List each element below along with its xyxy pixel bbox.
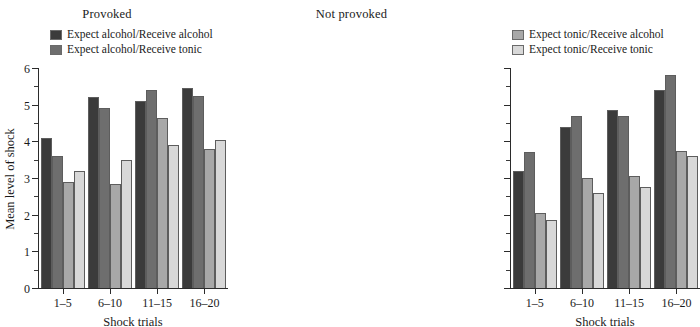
bar-group: 11–15 [134,68,181,288]
bar [110,184,121,289]
x-axis [510,288,700,289]
x-axis [38,288,228,289]
x-tick-label: 6–10 [98,296,122,311]
bar [88,97,99,288]
bar [135,101,146,288]
legend-label: Expect tonic/Receive tonic [529,43,653,56]
bar-group: 16–20 [181,68,228,288]
bar-group: 11–15 [606,68,653,288]
legend-swatch-icon [512,45,524,55]
x-tick [676,288,677,294]
y-tick-minor [506,196,510,197]
y-tick [504,215,510,216]
legend-item: Expect tonic/Receive tonic [512,42,664,57]
x-axis-label: Shock trials [103,315,162,327]
bar [74,171,85,288]
y-tick-label: 4 [24,135,30,150]
legend-item: Expect alcohol/Receive alcohol [50,27,213,42]
x-tick-label: 11–15 [614,296,644,311]
chart-panel-provoked: Provoked Expect alcohol/Receive alcohol … [0,0,238,327]
legend-label: Expect alcohol/Receive tonic [67,43,202,56]
bar [52,156,63,288]
y-tick-label: 0 [24,282,30,297]
bar-group: 6–10 [86,68,133,288]
y-tick [32,178,38,179]
bar [593,193,604,288]
y-tick [32,141,38,142]
x-tick-label: 1–5 [526,296,544,311]
y-tick-minor [506,270,510,271]
bar [665,75,676,288]
bar [146,90,157,288]
x-tick-label: 16–20 [189,296,219,311]
y-tick-label: 1 [24,245,30,260]
y-tick-label: 2 [24,208,30,223]
bar [629,176,640,288]
bar [121,160,132,288]
y-tick-label: 6 [24,62,30,77]
bar [546,220,557,288]
bar [582,178,593,288]
bar [654,90,665,288]
bar [41,138,52,288]
x-tick [110,288,111,294]
y-tick-minor [34,233,38,234]
y-tick [32,68,38,69]
bar-group: 16–20 [653,68,700,288]
legend-item: Expect alcohol/Receive tonic [50,42,213,57]
y-tick-minor [506,160,510,161]
legend-item: Expect tonic/Receive alcohol [512,27,664,42]
x-tick [535,288,536,294]
y-tick [32,251,38,252]
bar [560,127,571,288]
y-tick [504,251,510,252]
y-tick-minor [34,160,38,161]
legend-label: Expect tonic/Receive alcohol [529,28,664,41]
bar-group: 6–10 [558,68,605,288]
bar [193,96,204,289]
x-tick [63,288,64,294]
y-tick-minor [34,86,38,87]
y-tick-minor [34,123,38,124]
y-tick-minor [34,270,38,271]
legend-not-provoked: Expect tonic/Receive alcohol Expect toni… [512,27,664,57]
bar [618,116,629,288]
bar-group: 1–5 [39,68,86,288]
legend-swatch-icon [512,30,524,40]
x-axis-label: Shock trials [575,315,634,327]
y-tick [504,178,510,179]
legend-provoked: Expect alcohol/Receive alcohol Expect al… [50,27,213,57]
y-tick-minor [506,86,510,87]
bar [571,116,582,288]
bar-groups: 1–56–1011–1516–20 [511,68,700,288]
chart-panel-not-provoked: Not provoked Expect tonic/Receive alcoho… [238,0,477,327]
x-tick [204,288,205,294]
panel-title: Provoked [0,7,226,22]
bar [63,182,74,288]
y-tick [504,141,510,142]
bar [204,149,215,288]
bar [607,110,618,288]
y-tick-minor [34,196,38,197]
x-tick-label: 11–15 [142,296,172,311]
x-tick [157,288,158,294]
bar [535,213,546,288]
plot-area: 1–56–1011–1516–20 Shock trials [510,68,700,289]
bar [513,171,524,288]
bar [157,118,168,289]
legend-swatch-icon [50,45,62,55]
bar [168,145,179,288]
bar [182,88,193,288]
x-tick-label: 16–20 [661,296,691,311]
x-tick [629,288,630,294]
legend-label: Expect alcohol/Receive alcohol [67,28,213,41]
bar [215,140,226,289]
bar [524,152,535,288]
y-tick [32,215,38,216]
y-tick [504,105,510,106]
x-tick [582,288,583,294]
bar [640,187,651,288]
x-tick-label: 1–5 [54,296,72,311]
bar [687,156,698,288]
